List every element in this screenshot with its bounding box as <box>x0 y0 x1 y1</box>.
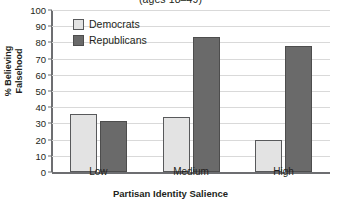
y-tick-label: 90 <box>35 21 46 32</box>
legend-label-democrats: Democrats <box>89 18 140 30</box>
chart-legend: Democrats Republicans <box>73 17 147 49</box>
x-tick-label-medium: Medium <box>173 166 209 177</box>
y-tick-label: 30 <box>35 118 46 129</box>
bar-low-republicans <box>100 121 127 172</box>
legend-item-democrats: Democrats <box>73 17 147 31</box>
bar-medium-republicans <box>193 37 220 172</box>
legend-swatch-republicans-icon <box>73 35 84 46</box>
y-tick-mark <box>48 172 52 173</box>
y-tick-mark <box>48 10 52 11</box>
x-tick-label-low: Low <box>89 166 107 177</box>
y-tick-label: 70 <box>35 53 46 64</box>
y-tick-mark <box>48 74 52 75</box>
y-tick-label: 60 <box>35 69 46 80</box>
y-tick-mark <box>48 58 52 59</box>
bar-medium-democrats <box>163 117 190 172</box>
bar-chart: (ages 18–49) % Believing Falsehood 01020… <box>0 0 341 207</box>
chart-title: (ages 18–49) <box>0 0 341 5</box>
bar-low-democrats <box>70 114 97 172</box>
bar-high-republicans <box>285 46 312 172</box>
y-tick-label: 10 <box>35 150 46 161</box>
y-axis-title-line-2: Falsehood <box>14 17 25 125</box>
y-tick-mark <box>48 123 52 124</box>
y-tick-label: 80 <box>35 37 46 48</box>
y-tick-mark <box>48 155 52 156</box>
y-tick-mark <box>48 26 52 27</box>
legend-label-republicans: Republicans <box>89 34 147 46</box>
y-tick-label: 100 <box>30 5 46 16</box>
y-axis-title: % Believing Falsehood <box>3 17 29 125</box>
legend-item-republicans: Republicans <box>73 33 147 47</box>
y-tick-mark <box>48 107 52 108</box>
x-tick-label-high: High <box>273 166 294 177</box>
y-tick-mark <box>48 91 52 92</box>
x-axis-title: Partisan Identity Salience <box>0 188 341 199</box>
y-tick-mark <box>48 139 52 140</box>
gridline <box>52 10 330 11</box>
y-tick-label: 20 <box>35 134 46 145</box>
y-tick-label: 0 <box>41 167 46 178</box>
y-tick-label: 40 <box>35 102 46 113</box>
y-tick-mark <box>48 42 52 43</box>
y-axis-title-line-1: % Believing <box>3 17 14 125</box>
y-tick-label: 50 <box>35 86 46 97</box>
legend-swatch-democrats-icon <box>73 19 84 30</box>
